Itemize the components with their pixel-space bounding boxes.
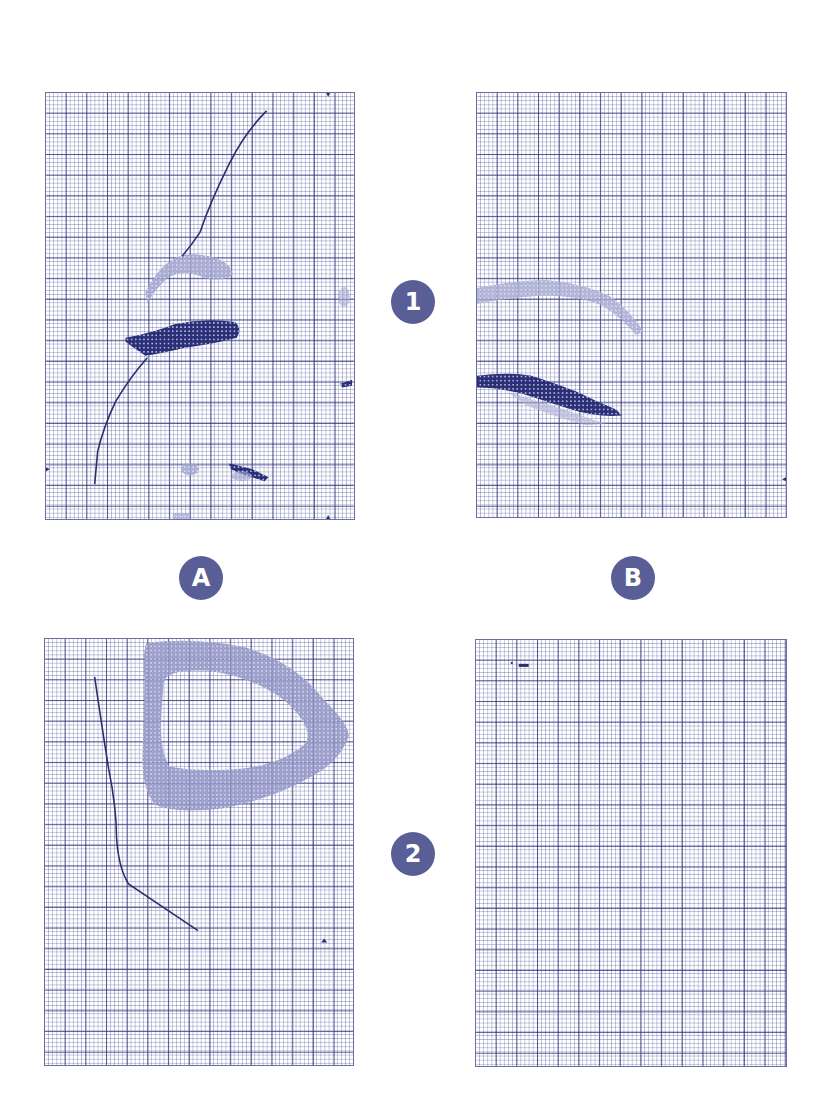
- panel-1a-overlay: [46, 93, 354, 519]
- panel-1b: [476, 92, 787, 518]
- edge-marker: [326, 515, 330, 519]
- small-dark-mark: [519, 664, 529, 667]
- trace-line-lower: [95, 358, 148, 484]
- light-speck: [232, 471, 252, 481]
- panel-1b-overlay: [477, 93, 786, 517]
- small-marker: [321, 939, 327, 943]
- panel-2b-overlay: [476, 640, 786, 1066]
- edge-marker: [326, 93, 330, 97]
- row-2-badge: 2: [391, 832, 435, 876]
- row-1-badge: 1: [391, 280, 435, 324]
- column-b-badge: B: [611, 556, 655, 600]
- light-speck: [181, 463, 199, 475]
- dark-blob: [125, 320, 239, 355]
- panel-2b: [475, 639, 787, 1067]
- light-arc-region: [145, 254, 232, 304]
- edge-marker: [782, 477, 786, 481]
- small-dark-dot: [511, 662, 513, 664]
- panel-1a: [45, 92, 355, 520]
- trace-line-upper: [182, 111, 266, 256]
- column-a-badge: A: [179, 556, 223, 600]
- panel-2a-overlay: [45, 639, 353, 1065]
- panel-2a: [44, 638, 354, 1066]
- light-speck: [338, 287, 350, 307]
- edge-marker: [46, 467, 50, 471]
- dark-speck: [340, 380, 352, 388]
- light-arc-band: [477, 280, 644, 335]
- light-ring-region: [142, 641, 348, 811]
- light-speck: [173, 513, 189, 519]
